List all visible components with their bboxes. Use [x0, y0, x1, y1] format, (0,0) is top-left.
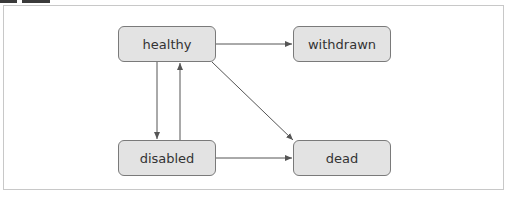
node-label: dead [326, 151, 358, 166]
node-label: withdrawn [308, 37, 376, 52]
node-label: healthy [143, 37, 192, 52]
node-label: disabled [140, 151, 195, 166]
node-disabled[interactable]: disabled [118, 140, 216, 176]
edge-healthy-dead [212, 62, 293, 140]
edges-layer [0, 0, 507, 197]
node-dead[interactable]: dead [293, 140, 391, 176]
node-withdrawn[interactable]: withdrawn [293, 26, 391, 62]
node-healthy[interactable]: healthy [118, 26, 216, 62]
